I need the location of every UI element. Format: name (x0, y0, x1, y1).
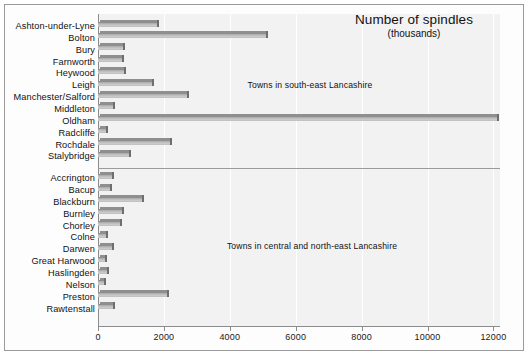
bar (98, 195, 144, 202)
bar-front-face (98, 93, 187, 98)
group-annotation: Towns in central and north-east Lancashi… (227, 241, 397, 251)
bar-front-face (98, 152, 129, 157)
bar (98, 20, 159, 27)
bar-front-face (98, 69, 124, 74)
bar-end-cap (112, 172, 114, 179)
bar (98, 243, 114, 250)
category-label: Manchester/Salford (14, 92, 95, 102)
category-labels: Ashton-under-LyneBoltonBuryFarnworthHeyw… (0, 0, 95, 355)
bar-end-cap (170, 138, 172, 145)
bar-end-cap (129, 150, 131, 157)
bar (98, 138, 172, 145)
bar-end-cap (106, 126, 108, 133)
plot-area (98, 14, 500, 326)
category-label: Accrington (51, 173, 95, 183)
bar-front-face (98, 81, 152, 86)
bar-end-cap (266, 31, 268, 38)
bar (98, 126, 108, 133)
category-label: Bolton (68, 33, 95, 43)
category-label: Colne (70, 232, 95, 242)
gridline (164, 14, 165, 326)
bar-front-face (98, 116, 497, 121)
bar (98, 172, 114, 179)
category-label: Blackburn (53, 197, 95, 207)
x-tick-label: 0 (95, 332, 100, 342)
category-label: Heywood (56, 68, 95, 78)
category-label: Oldham (62, 116, 95, 126)
bar-end-cap (122, 207, 124, 214)
x-axis-line (98, 326, 500, 327)
bar (98, 278, 106, 285)
gridline (230, 14, 231, 326)
tick-mark (296, 326, 297, 331)
bar-front-face (98, 57, 122, 62)
page-title: Number of spindles (thousands) (324, 12, 504, 39)
gridline (296, 14, 297, 326)
category-label: Middleton (54, 104, 95, 114)
bar-end-cap (112, 243, 114, 250)
bar-front-face (98, 221, 120, 226)
bar (98, 91, 189, 98)
category-label: Bacup (68, 185, 95, 195)
category-label: Rochdale (55, 140, 95, 150)
category-label: Darwen (63, 244, 95, 254)
bar-end-cap (106, 231, 108, 238)
bar-front-face (98, 197, 142, 202)
bar-end-cap (497, 114, 499, 121)
bar (98, 55, 124, 62)
bar (98, 79, 154, 86)
bar (98, 207, 124, 214)
x-tick-label: 10000 (414, 332, 440, 342)
gridline (362, 14, 363, 326)
bar (98, 150, 131, 157)
category-label: Farnworth (53, 57, 95, 67)
bar (98, 102, 115, 109)
category-label: Leigh (72, 80, 95, 90)
group-divider (98, 168, 500, 169)
bar-front-face (98, 128, 106, 133)
bar-end-cap (122, 55, 124, 62)
bar-front-face (98, 186, 110, 191)
bar-front-face (98, 304, 113, 309)
category-label: Radcliffe (59, 128, 95, 138)
category-label: Great Harwood (31, 256, 95, 266)
bar-end-cap (123, 43, 125, 50)
bar-end-cap (142, 195, 144, 202)
bar-front-face (98, 104, 113, 109)
x-tick-label: 4000 (219, 332, 240, 342)
bar-end-cap (110, 184, 112, 191)
chart-title-main: Number of spindles (324, 12, 504, 27)
bar (98, 67, 126, 74)
bar-end-cap (120, 219, 122, 226)
category-label: Nelson (66, 280, 95, 290)
category-label: Stalybridge (48, 151, 95, 161)
bar (98, 290, 169, 297)
bar-end-cap (104, 278, 106, 285)
x-tick-label: 12000 (480, 332, 506, 342)
tick-mark (164, 326, 165, 331)
bar-end-cap (113, 302, 115, 309)
chart-figure: 020004000600080001000012000 Ashton-under… (0, 0, 528, 355)
bar-front-face (98, 292, 167, 297)
bar-end-cap (107, 267, 109, 274)
gridline (493, 14, 494, 326)
bar-front-face (98, 140, 170, 145)
bar (98, 219, 122, 226)
bar-end-cap (113, 102, 115, 109)
bar-end-cap (124, 67, 126, 74)
bar-front-face (98, 209, 122, 214)
category-label: Burnley (63, 209, 95, 219)
category-label: Chorley (63, 221, 95, 231)
bar (98, 43, 125, 50)
bar (98, 267, 109, 274)
x-tick-label: 8000 (351, 332, 372, 342)
bar-front-face (98, 269, 107, 274)
category-label: Bury (76, 45, 95, 55)
tick-mark (493, 326, 494, 331)
tick-mark (98, 326, 99, 331)
bar-front-face (98, 257, 105, 262)
bar-front-face (98, 45, 123, 50)
bar (98, 184, 112, 191)
category-label: Preston (63, 292, 95, 302)
chart-title-units: (thousands) (324, 28, 504, 39)
